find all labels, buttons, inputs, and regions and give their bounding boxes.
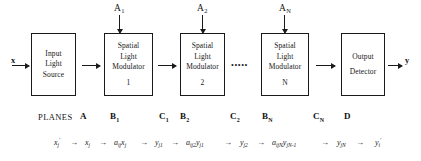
chain-term-xj-prime: xj' [54,138,60,147]
figure-block-diagram: A1 A2 AN x Input Light Source Spatial Li… [0,0,421,161]
plane-b2: B2 [180,111,189,121]
block-slm-n-index: N [282,78,288,89]
chain-arrow-7: → [321,138,329,147]
block-input-light-source: Input Light Source [31,33,76,96]
block-slm-2: Spatial Light Modulator 2 [180,33,225,96]
plane-cn: CN [313,111,324,121]
block-output-detector: Output Detector [341,33,385,96]
chain-term-yi-prime-sup: ' [380,137,381,143]
ellipsis-between-modulators: ••••• [231,61,248,70]
plane-c2: C2 [230,111,240,121]
control-label-an-sub: N [286,7,291,14]
transformation-chain-row: xj' → xj → aijxj → yj1 → aij2yj1 → yj2 →… [0,136,421,158]
planes-title: PLANES [38,112,73,122]
plane-c2-sub: 2 [237,117,240,123]
chain-arrow-1: → [70,138,78,147]
control-label-a2-sub: 2 [204,7,207,14]
output-vector-label: y [405,55,409,65]
block-slm-n-line-1: Spatial [274,41,296,52]
chain-term-yi-prime: yi' [375,138,381,147]
arrow-slmn-to-detector [316,65,335,66]
chain-arrow-3: → [140,138,148,147]
chain-term-xj-sub: j [89,142,91,148]
control-label-a1-sub: 1 [121,7,124,14]
planes-row: PLANES A B1 C1 B2 C2 BN CN D [0,110,421,130]
plane-b1-sub: 1 [116,117,119,123]
chain-term-aij2-yj1: aij2yj1 [186,138,204,147]
plane-d-base: D [344,111,351,121]
chain-term-aij-xj-suffix-sub: j [125,142,127,148]
arrow-detector-to-output [388,65,402,66]
plane-c2-base: C [230,111,237,121]
plane-cn-base: C [313,111,320,121]
control-label-an-base: A [279,3,286,13]
block-slm-n-line-3: Modulator [269,62,302,73]
chain-term-yjn: yjN [337,138,346,147]
arrow-source-to-slm1 [82,65,100,66]
block-slm-1-line-2: Light [120,52,137,63]
block-output-detector-line-1: Output [352,52,373,63]
control-arrow-an [284,15,285,33]
input-vector-label: x [11,55,15,65]
chain-term-xj: xj [85,138,90,147]
chain-term-yj1: yj1 [155,138,163,147]
block-slm-1-line-1: Spatial [118,41,140,52]
plane-d: D [344,111,351,121]
chain-term-xj-prime-sup: ' [59,137,60,143]
plane-c1-sub: 1 [166,117,169,123]
control-label-an: AN [279,3,291,13]
chain-term-yi-prime-sub: i [379,142,381,148]
plane-c1-base: C [159,111,166,121]
block-input-light-source-line-1: Input [45,49,61,60]
chain-term-yj1-sub: j1 [159,142,163,148]
block-input-light-source-line-2: Light [45,59,62,70]
block-slm-2-index: 2 [201,78,205,89]
block-slm-n-line-2: Light [277,52,294,63]
control-arrow-a1 [119,15,120,33]
chain-term-xj-prime-sub: j [58,142,60,148]
block-slm-1: Spatial Light Modulator 1 [104,33,153,96]
control-label-a2-base: A [197,3,204,13]
block-slm-2-line-3: Modulator [186,62,219,73]
block-slm-1-line-3: Modulator [112,62,145,73]
chain-term-aijn-yjn1: aijNyjN-1 [272,138,296,147]
chain-term-yjn-sub: jN [341,142,346,148]
chain-arrow-4: → [171,138,179,147]
plane-c1: C1 [159,111,169,121]
arrow-input-to-source [12,65,29,66]
chain-term-aijn-yjn1-sub: ijN [276,142,283,148]
chain-term-yj2-sub: j2 [244,142,248,148]
plane-bn-sub: N [268,117,272,123]
chain-term-aij2-yj1-suffix-sub: j1 [199,142,203,148]
block-slm-2-line-1: Spatial [192,41,214,52]
plane-a: A [80,111,87,121]
block-slm-2-line-2: Light [194,52,211,63]
chain-arrow-2: → [99,138,107,147]
block-slm-1-index: 1 [127,78,131,89]
control-label-a1: A1 [114,3,124,13]
chain-term-yj2: yj2 [240,138,248,147]
arrow-slm1-to-slm2 [158,65,176,66]
chain-term-aij-xj-sub: ij [118,142,121,148]
plane-a-base: A [80,111,87,121]
control-label-a2: A2 [197,3,207,13]
block-output-detector-line-2: Detector [350,67,377,78]
chain-arrow-5: → [224,138,232,147]
chain-arrow-6: → [257,138,265,147]
control-arrow-a2 [202,15,203,33]
chain-term-aij2-yj1-sub: ij2 [190,142,196,148]
plane-bn: BN [262,111,272,121]
chain-term-aijn-yjn1-suffix-sub: jN-1 [286,142,296,148]
plane-b2-sub: 2 [186,117,189,123]
chain-arrow-8: → [356,138,364,147]
plane-cn-sub: N [320,117,324,123]
block-slm-n: Spatial Light Modulator N [261,33,309,96]
plane-b1: B1 [110,111,119,121]
block-input-light-source-line-3: Source [43,70,64,81]
chain-term-aij-xj: aijxj [114,138,126,147]
control-label-a1-base: A [114,3,121,13]
